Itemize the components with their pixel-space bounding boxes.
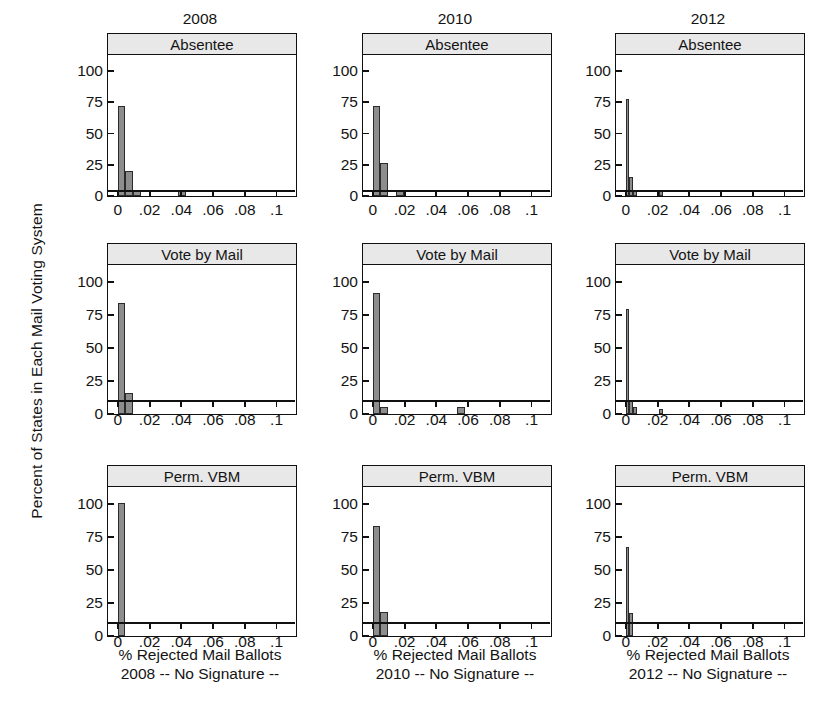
- x-axis-labels: 0.02.04.06.08.1: [616, 201, 803, 221]
- x-tick-mark: [531, 622, 533, 629]
- caption-2012-line2: 2012 -- No Signature --: [593, 664, 818, 683]
- x-tick-mark: [784, 400, 786, 407]
- x-tick-label: .06: [202, 633, 224, 651]
- x-tick-mark: [244, 400, 246, 407]
- panel-2008-vote-by-mail: Vote by Mail0255075100: [107, 243, 297, 415]
- x-tick-label: 0: [369, 201, 378, 219]
- x-tick-label: .08: [742, 411, 764, 429]
- y-tick-label: 50: [594, 124, 611, 144]
- y-tick-label: 75: [594, 527, 611, 547]
- y-tick-label: 100: [585, 272, 611, 292]
- y-tick-label: 50: [594, 560, 611, 580]
- x-tick-mark: [404, 400, 406, 407]
- x-tick-label: .08: [234, 633, 256, 651]
- y-tick-mark: [107, 314, 114, 316]
- trellis-histogram-figure: Percent of States in Each Mail Voting Sy…: [0, 0, 818, 719]
- y-tick-label: 100: [585, 494, 611, 514]
- panel-2012-absentee: Absentee0255075100: [615, 33, 805, 197]
- x-tick-mark: [117, 190, 119, 197]
- x-tick-mark: [244, 190, 246, 197]
- bar-series: [108, 55, 296, 196]
- x-tick-label: .02: [647, 201, 669, 219]
- panel-2012-vote-by-mail: Vote by Mail0255075100: [615, 243, 805, 415]
- x-tick-label: 0: [369, 633, 378, 651]
- x-axis-labels: 0.02.04.06.08.1: [616, 411, 803, 431]
- histogram-bar: [118, 303, 126, 414]
- x-tick-label: .08: [489, 633, 511, 651]
- y-tick-label: 50: [86, 338, 103, 358]
- panel-strip-label: Absentee: [107, 33, 297, 55]
- x-axis-line: [616, 190, 803, 192]
- x-tick-mark: [117, 622, 119, 629]
- x-tick-mark: [752, 622, 754, 629]
- panel-strip-label: Vote by Mail: [615, 243, 805, 265]
- x-tick-label: .06: [710, 633, 732, 651]
- y-tick-label: 50: [341, 124, 358, 144]
- y-tick-mark: [362, 347, 369, 349]
- column-title-2008: 2008: [100, 10, 300, 28]
- x-tick-label: .04: [679, 633, 701, 651]
- x-tick-mark: [688, 190, 690, 197]
- x-tick-mark: [467, 622, 469, 629]
- y-tick-label: 0: [602, 404, 611, 424]
- x-axis-line: [108, 400, 295, 402]
- y-tick-label: 50: [341, 338, 358, 358]
- y-tick-mark: [362, 314, 369, 316]
- y-tick-mark: [362, 569, 369, 571]
- x-tick-label: .04: [171, 411, 193, 429]
- x-tick-label: .1: [270, 411, 283, 429]
- y-tick-label: 100: [77, 272, 103, 292]
- y-tick-mark: [615, 380, 622, 382]
- y-tick-mark: [615, 70, 622, 72]
- x-tick-label: .02: [139, 201, 161, 219]
- x-axis-labels: 0.02.04.06.08.1: [108, 633, 295, 653]
- x-axis-line: [363, 190, 550, 192]
- x-tick-label: .1: [525, 201, 538, 219]
- y-tick-mark: [107, 536, 114, 538]
- histogram-bar: [633, 191, 637, 196]
- x-tick-mark: [117, 400, 119, 407]
- x-tick-label: .06: [710, 411, 732, 429]
- x-tick-label: .1: [525, 633, 538, 651]
- histogram-bar: [118, 503, 126, 636]
- x-tick-label: 0: [369, 411, 378, 429]
- x-tick-mark: [625, 400, 627, 407]
- y-tick-label: 75: [86, 92, 103, 112]
- bar-series: [363, 55, 551, 196]
- plot-area: [362, 265, 552, 415]
- bar-series: [108, 265, 296, 414]
- y-tick-label: 50: [86, 560, 103, 580]
- y-tick-mark: [107, 380, 114, 382]
- y-tick-label: 0: [94, 626, 103, 646]
- y-tick-label: 100: [332, 494, 358, 514]
- y-tick-label: 25: [86, 593, 103, 613]
- x-tick-mark: [435, 400, 437, 407]
- y-tick-mark: [615, 602, 622, 604]
- x-tick-label: .02: [394, 201, 416, 219]
- histogram-bar: [659, 191, 663, 196]
- x-tick-mark: [625, 190, 627, 197]
- x-tick-mark: [372, 400, 374, 407]
- x-tick-label: .08: [489, 411, 511, 429]
- x-axis-labels: 0.02.04.06.08.1: [616, 633, 803, 653]
- x-tick-mark: [784, 622, 786, 629]
- y-tick-mark: [362, 602, 369, 604]
- y-tick-label: 75: [594, 92, 611, 112]
- x-tick-label: 0: [114, 633, 123, 651]
- x-tick-label: .08: [234, 411, 256, 429]
- y-tick-mark: [107, 101, 114, 103]
- x-tick-label: .1: [270, 633, 283, 651]
- x-tick-mark: [212, 400, 214, 407]
- x-axis-line: [108, 622, 295, 624]
- x-tick-mark: [404, 622, 406, 629]
- panel-strip-label: Absentee: [615, 33, 805, 55]
- x-tick-mark: [276, 400, 278, 407]
- x-tick-label: .1: [778, 201, 791, 219]
- plot-area: [107, 487, 297, 637]
- x-tick-mark: [720, 190, 722, 197]
- x-tick-label: .1: [525, 411, 538, 429]
- y-tick-label: 75: [86, 305, 103, 325]
- y-tick-mark: [615, 347, 622, 349]
- x-tick-mark: [720, 622, 722, 629]
- x-tick-mark: [404, 190, 406, 197]
